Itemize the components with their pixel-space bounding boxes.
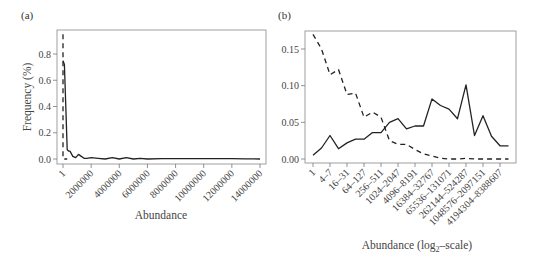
y-tick-label: 0.6	[39, 75, 52, 86]
y-tick-label: 0.05	[282, 117, 300, 128]
panel-a-y-axis: 0.00.20.40.60.8	[39, 49, 58, 165]
panel-b-plot-frame	[305, 31, 516, 163]
x-tick-label: 4000000	[91, 168, 124, 201]
y-tick-label: 0.0	[39, 154, 52, 165]
panel-a-label: (a)	[21, 9, 34, 22]
panel-b-dashed-line	[313, 34, 509, 159]
panel-a-x-axis: 1200000040000006000000800000010000000120…	[56, 164, 264, 204]
panel-b-series	[313, 34, 509, 159]
panel-a-x-axis-title: Abundance	[135, 209, 187, 221]
y-tick-label: 0.4	[39, 101, 52, 112]
panel-b-label: (b)	[278, 9, 291, 22]
panel-b-x-axis-title: Abundance (log2–scale)	[362, 239, 473, 254]
x-tick-label: 6000000	[119, 168, 152, 201]
y-tick-label: 0.00	[282, 154, 300, 165]
panel-a-plot-frame	[57, 30, 266, 164]
panel-b: (b) 0.000.050.100.15 14–716–3164–127256–…	[278, 9, 516, 254]
panel-b-x-axis-title-post: –scale)	[439, 239, 473, 252]
panel-a-y-axis-title: Frequency (%)	[21, 63, 34, 132]
panel-a-series	[63, 34, 260, 159]
x-tick-label: 1	[56, 168, 67, 179]
y-tick-label: 0.8	[39, 49, 52, 60]
y-tick-label: 0.2	[39, 127, 52, 138]
figure: (a) 0.00.20.40.60.8 12000000400000060000…	[0, 0, 535, 261]
panel-b-solid-line	[313, 85, 509, 155]
panel-a-solid-line	[63, 61, 260, 159]
panel-b-y-axis: 0.000.050.100.15	[282, 44, 306, 165]
panel-a: (a) 0.00.20.40.60.8 12000000400000060000…	[21, 9, 266, 221]
x-tick-label: 2000000	[63, 168, 96, 201]
y-tick-label: 0.10	[282, 80, 300, 91]
panel-b-x-axis: 14–716–3164–127256–5111024–20474096–8191…	[306, 163, 504, 227]
panel-b-x-axis-title-pre: Abundance (log	[362, 239, 436, 252]
y-tick-label: 0.15	[282, 44, 300, 55]
